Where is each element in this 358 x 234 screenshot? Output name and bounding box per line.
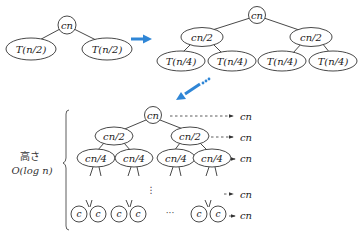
stage2-level2-label: T(n/4): [318, 56, 349, 67]
diagram-canvas: cn T(n/2) T(n/2) cn cn/2 cn/2 T(n/4) T(n…: [0, 0, 358, 234]
stage2-level1-label: cn/2: [300, 32, 322, 43]
height-brace: [63, 110, 69, 230]
stage3-root-label: cn: [147, 110, 159, 121]
stage3-level2-label: cn/4: [165, 153, 187, 164]
leaf-label: c: [76, 209, 81, 219]
stage1-child-label: T(n/2): [92, 44, 123, 55]
leaf-label: c: [135, 209, 140, 219]
level-cost-label: cn: [240, 132, 252, 143]
stage1-tree: cn T(n/2) T(n/2): [6, 16, 132, 60]
level-cost-label: cn: [240, 189, 252, 200]
stage2-tree: cn cn/2 cn/2 T(n/4) T(n/4) T(n/4) T(n/4): [157, 7, 357, 72]
leaf-label: c: [95, 209, 100, 219]
stage3-level2-label: cn/4: [123, 153, 145, 164]
stage3-level2-label: cn/4: [201, 153, 223, 164]
leaf-label: c: [116, 209, 121, 219]
stage3-level1-label: cn/2: [179, 131, 201, 142]
stage2-level1-label: cn/2: [191, 32, 213, 43]
level-cost-label: cn: [240, 210, 252, 221]
stage3-tree: 高さ O(log n) cn cn/2 cn/2 cn/4 cn/4 cn/4 …: [11, 107, 252, 231]
stage2-root-label: cn: [251, 10, 263, 21]
leaf-label: c: [196, 209, 201, 219]
stage1-child-label: T(n/2): [16, 44, 47, 55]
height-label-line1: 高さ: [20, 150, 40, 162]
height-label-line2: O(log n): [11, 165, 52, 176]
stage3-level1-label: cn/2: [103, 131, 125, 142]
stage2-level2-label: T(n/4): [166, 56, 197, 67]
leaf-ellipsis: ···: [166, 208, 175, 218]
stage3-level2-label: cn/4: [85, 153, 107, 164]
arrow-right-icon: [131, 35, 152, 44]
stage2-level2-label: T(n/4): [217, 56, 248, 67]
arrow-down-left-icon: [176, 78, 210, 100]
level-cost-label: cn: [240, 111, 252, 122]
stage1-root-label: cn: [61, 20, 73, 31]
leaf-label: c: [215, 209, 220, 219]
vertical-ellipsis: ⋮: [147, 185, 156, 195]
level-cost-label: cn: [240, 153, 252, 164]
stage2-level2-label: T(n/4): [267, 56, 298, 67]
recursion-tree-diagram: cn T(n/2) T(n/2) cn cn/2 cn/2 T(n/4) T(n…: [0, 0, 358, 234]
